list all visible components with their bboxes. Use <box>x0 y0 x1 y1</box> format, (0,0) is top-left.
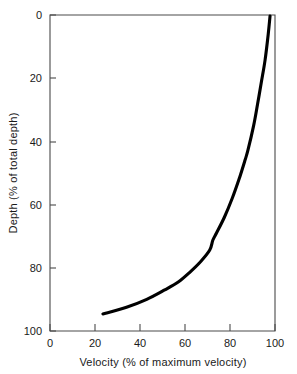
x-tick-label-40: 40 <box>134 337 146 349</box>
x-tick-labels: 0 20 40 60 80 100 <box>47 337 284 349</box>
y-tick-label-40: 40 <box>30 136 42 148</box>
x-tick-label-20: 20 <box>89 337 101 349</box>
y-tick-label-100: 100 <box>24 325 42 337</box>
x-axis-ticks <box>50 324 275 331</box>
y-tick-labels: 0 20 40 60 80 100 <box>24 9 42 337</box>
x-tick-label-60: 60 <box>179 337 191 349</box>
y-tick-label-0: 0 <box>36 9 42 21</box>
y-axis-ticks <box>50 15 56 331</box>
y-tick-label-80: 80 <box>30 262 42 274</box>
velocity-depth-plot: 0 20 40 60 80 100 0 20 40 60 80 100 Velo… <box>0 0 297 374</box>
y-tick-label-60: 60 <box>30 199 42 211</box>
velocity-profile-curve <box>103 16 270 314</box>
chart-figure: 0 20 40 60 80 100 0 20 40 60 80 100 Velo… <box>0 0 297 374</box>
x-axis-title: Velocity (% of maximum velocity) <box>79 356 246 368</box>
y-tick-label-20: 20 <box>30 72 42 84</box>
x-tick-label-100: 100 <box>266 337 284 349</box>
x-tick-label-0: 0 <box>47 337 53 349</box>
x-tick-label-80: 80 <box>224 337 236 349</box>
y-axis-title: Depth (% of total depth) <box>7 113 19 234</box>
